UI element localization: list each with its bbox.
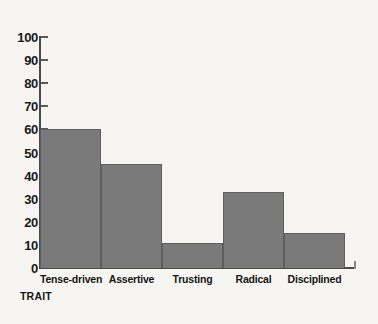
y-axis-tick-label: 100 [6,31,38,44]
x-axis-category-label: Radical [223,274,284,285]
x-axis-category-label: Assertive [101,274,162,285]
bar [40,129,101,268]
y-axis-tick-label: 10 [6,239,38,252]
y-axis-tick-label: 30 [6,193,38,206]
bar [101,164,162,268]
x-axis-category-label: Trusting [162,274,223,285]
y-axis-tick-label: 40 [6,170,38,183]
plot-area [40,37,355,268]
x-axis-category-label: Tense-driven [40,274,101,285]
y-axis-tick-label: 20 [6,216,38,229]
y-axis-tick-label: 80 [6,77,38,90]
y-axis-tick-label: 90 [6,54,38,67]
bar [223,192,284,268]
y-axis-tick-label: 0 [6,262,38,275]
x-axis-title: TRAIT [20,291,52,302]
y-axis-tick-label: 70 [6,100,38,113]
bar [162,243,223,268]
y-axis-tick-label: 50 [6,147,38,160]
bar-chart: 1009080706050403020100 Tense-drivenAsser… [0,0,378,324]
x-axis-category-label: Disciplined [284,274,345,285]
y-axis-tick-label: 60 [6,123,38,136]
bar [284,233,345,268]
